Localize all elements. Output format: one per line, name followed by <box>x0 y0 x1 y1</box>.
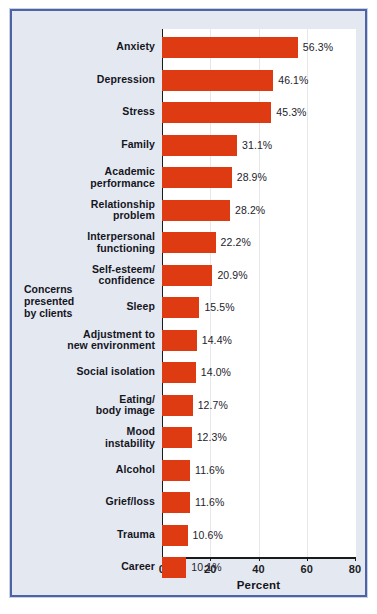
bar-row[interactable]: Alcohol11.6% <box>12 460 369 481</box>
category-label: Social isolation <box>15 366 155 378</box>
bar-row[interactable]: Academicperformance28.9% <box>12 167 369 188</box>
bar-value-label: 28.9% <box>237 171 267 183</box>
bar[interactable] <box>162 427 192 448</box>
category-label: Depression <box>15 74 155 86</box>
bar-value-label: 12.7% <box>198 399 228 411</box>
bar-value-label: 46.1% <box>278 74 308 86</box>
x-axis-title: Percent <box>162 579 355 591</box>
bar-row[interactable]: Eating/body image12.7% <box>12 395 369 416</box>
category-label: Moodinstability <box>15 426 155 449</box>
bar-value-label: 22.2% <box>221 236 251 248</box>
bar-row[interactable]: Depression46.1% <box>12 70 369 91</box>
category-label: Anxiety <box>15 41 155 53</box>
category-label: Family <box>15 139 155 151</box>
bar-value-label: 20.9% <box>217 269 247 281</box>
bar-value-label: 11.6% <box>195 496 225 508</box>
bar-row[interactable]: Grief/loss11.6% <box>12 492 369 513</box>
bar[interactable] <box>162 167 232 188</box>
chart-figure: 020406080 Anxiety56.3%Depression46.1%Str… <box>10 9 367 597</box>
bar-value-label: 31.1% <box>242 139 272 151</box>
bar[interactable] <box>162 37 298 58</box>
bar-value-label: 56.3% <box>303 41 333 53</box>
bar[interactable] <box>162 265 212 286</box>
category-label: Career <box>15 561 155 573</box>
category-label: Eating/body image <box>15 394 155 417</box>
bar[interactable] <box>162 135 237 156</box>
bar-row[interactable]: Relationshipproblem28.2% <box>12 200 369 221</box>
bar[interactable] <box>162 200 230 221</box>
bar-value-label: 10.1% <box>191 561 221 573</box>
bar[interactable] <box>162 492 190 513</box>
bar-row[interactable]: Moodinstability12.3% <box>12 427 369 448</box>
bar[interactable] <box>162 297 199 318</box>
bar-row[interactable]: Anxiety56.3% <box>12 37 369 58</box>
bar-value-label: 15.5% <box>204 301 234 313</box>
bar-row[interactable]: Adjustment tonew environment14.4% <box>12 330 369 351</box>
bar-value-label: 11.6% <box>195 464 225 476</box>
bar[interactable] <box>162 557 186 578</box>
bar-value-label: 12.3% <box>197 431 227 443</box>
category-label: Stress <box>15 106 155 118</box>
bar-value-label: 14.0% <box>201 366 231 378</box>
bar-value-label: 14.4% <box>202 334 232 346</box>
bar[interactable] <box>162 395 193 416</box>
bar-row[interactable]: Family31.1% <box>12 135 369 156</box>
bar-value-label: 10.6% <box>193 529 223 541</box>
category-label: Grief/loss <box>15 496 155 508</box>
bar-row[interactable]: Interpersonalfunctioning22.2% <box>12 232 369 253</box>
bar[interactable] <box>162 232 216 253</box>
category-label: Alcohol <box>15 464 155 476</box>
bar[interactable] <box>162 70 273 91</box>
category-label: Academicperformance <box>15 166 155 189</box>
bar[interactable] <box>162 460 190 481</box>
bar-value-label: 45.3% <box>276 106 306 118</box>
category-label: Trauma <box>15 529 155 541</box>
y-axis-group-label: Concernspresentedby clients <box>24 283 110 319</box>
bar-row[interactable]: Stress45.3% <box>12 102 369 123</box>
category-label: Relationshipproblem <box>15 199 155 222</box>
bar-row[interactable]: Social isolation14.0% <box>12 362 369 383</box>
category-label: Interpersonalfunctioning <box>15 231 155 254</box>
bar-row[interactable]: Trauma10.6% <box>12 525 369 546</box>
bar[interactable] <box>162 525 188 546</box>
bar-row[interactable]: Career10.1% <box>12 557 369 578</box>
bar[interactable] <box>162 102 271 123</box>
bar[interactable] <box>162 362 196 383</box>
bar-value-label: 28.2% <box>235 204 265 216</box>
category-label: Adjustment tonew environment <box>15 329 155 352</box>
bar[interactable] <box>162 330 197 351</box>
